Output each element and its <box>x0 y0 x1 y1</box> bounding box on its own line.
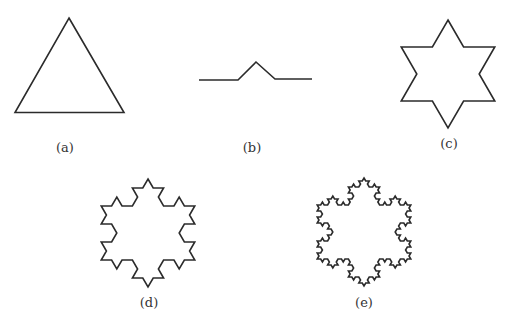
panel-label-c: (c) <box>440 136 457 151</box>
snowflake-shape-d <box>101 179 195 287</box>
koch-snowflake-figure <box>0 0 515 328</box>
panel-label-e: (e) <box>355 295 373 310</box>
panel-label-d: (d) <box>140 295 158 310</box>
koch-generator-shape-b <box>199 62 312 80</box>
panel-label-b: (b) <box>243 140 261 155</box>
snowflake-shape-e <box>317 178 411 286</box>
star-shape-c <box>401 20 495 128</box>
panel-label-a: (a) <box>56 140 74 155</box>
triangle-shape-a <box>15 18 124 113</box>
